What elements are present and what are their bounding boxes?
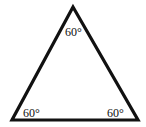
angle-label-bottom-right: 60° — [107, 106, 124, 120]
triangle-diagram: 60° 60° 60° — [0, 0, 146, 127]
equilateral-triangle — [12, 7, 138, 120]
angle-label-top: 60° — [65, 25, 82, 39]
angle-label-bottom-left: 60° — [23, 106, 40, 120]
